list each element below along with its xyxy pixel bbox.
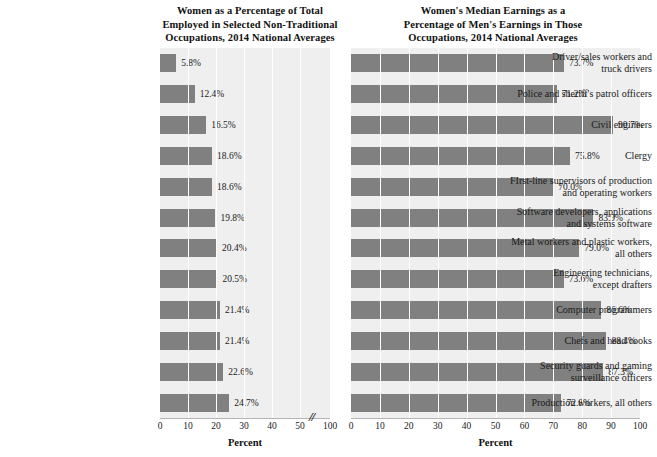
chart-title-right-line: Percentage of Men's Earnings in Those: [388, 18, 598, 32]
category-label: Security guards and gamingsurveillance o…: [494, 360, 652, 384]
category-label-line: Computer programmers: [494, 304, 652, 316]
category-label-line: and operating workers: [494, 187, 652, 199]
category-label-line: Software developers, applications: [494, 206, 652, 218]
chart-title-right: Women's Median Earnings as aPercentage o…: [388, 4, 598, 45]
category-label-line: Driver/sales workers and: [494, 51, 652, 63]
bar: [160, 363, 223, 381]
x-axis-left-tick-label: 10: [175, 421, 201, 432]
axis-break-marker: //: [309, 409, 314, 425]
category-label: Chefs and head cooks: [494, 335, 652, 347]
x-axis-right-tick-label: 60: [511, 421, 537, 432]
gridline: [188, 48, 189, 418]
bar-value-label: 18.6%: [217, 178, 242, 196]
axis-title-right: Percent: [351, 437, 640, 448]
bar-value-label: 21.4%: [225, 332, 250, 350]
chart-title-left-line: Women as a Percentage of Total: [152, 4, 348, 18]
category-label-line: Metal workers and plastic workers,: [494, 236, 652, 248]
category-label: FIrst-line supervisors of productionand …: [494, 175, 652, 199]
x-axis-right-tick-label: 0: [338, 421, 364, 432]
x-axis-right-tick-label: 10: [367, 421, 393, 432]
x-axis-right-tick-label: 90: [598, 421, 624, 432]
gridline: [300, 48, 301, 418]
category-label-line: truck drivers: [494, 63, 652, 75]
bar-value-label: 21.4%: [225, 301, 250, 319]
bar-value-label: 24.7%: [234, 394, 259, 412]
x-axis-left-tick-label: 0: [147, 421, 173, 432]
category-label: Driver/sales workers andtruck drivers: [494, 51, 652, 75]
gridline: [438, 48, 439, 418]
category-label-line: Clergy: [494, 150, 652, 162]
category-label-line: all others: [494, 248, 652, 260]
bar: [160, 332, 220, 350]
category-label-line: except drafters: [494, 279, 652, 291]
axis-title-left: Percent: [160, 437, 330, 448]
gridline: [409, 48, 410, 418]
x-axis-right-tick-label: 20: [396, 421, 422, 432]
bar-value-label: 20.4%: [222, 239, 247, 257]
category-label-line: surveillance officers: [494, 372, 652, 384]
bar: [160, 394, 229, 412]
gridline: [216, 48, 217, 418]
category-label: Software developers, applicationsand sys…: [494, 206, 652, 230]
bar-value-label: 5.8%: [181, 54, 201, 72]
bar: [160, 54, 176, 72]
bar: [160, 116, 206, 134]
chart-panel-left: Women as a Percentage of TotalEmployed i…: [0, 0, 340, 457]
category-label-line: Security guards and gaming: [494, 360, 652, 372]
x-axis-left-tick-label: 40: [259, 421, 285, 432]
x-axis-left-tick-label: 30: [231, 421, 257, 432]
x-axis-right-tick-label: 40: [454, 421, 480, 432]
bar: [160, 178, 212, 196]
chart-title-left: Women as a Percentage of TotalEmployed i…: [152, 4, 348, 45]
bar-value-label: 16.5%: [211, 116, 236, 134]
category-label-line: FIrst-line supervisors of production: [494, 175, 652, 187]
x-axis-right-tick-label: 100: [627, 421, 653, 432]
bar: [160, 147, 212, 165]
bar-value-label: 18.6%: [217, 147, 242, 165]
category-label: Metal workers and plastic workers,all ot…: [494, 236, 652, 260]
chart-title-left-line: Employed in Selected Non-Traditional: [152, 18, 348, 32]
category-label-line: Chefs and head cooks: [494, 335, 652, 347]
figure-root: { "figure": { "copyright": "© 2018 Cenga…: [0, 0, 657, 457]
x-axis-left-tick-label: 20: [203, 421, 229, 432]
gridline: [330, 48, 331, 418]
category-label: Police and sheriff's patrol officers: [494, 88, 652, 100]
x-axis-right-tick-label: 80: [569, 421, 595, 432]
gridline: [467, 48, 468, 418]
axis-baseline-right: [351, 418, 640, 419]
gridline: [380, 48, 381, 418]
x-axis-right-tick-label: 50: [483, 421, 509, 432]
chart-title-right-line: Women's Median Earnings as a: [388, 4, 598, 18]
x-axis-right-tick-label: 70: [540, 421, 566, 432]
bar: [160, 301, 220, 319]
category-label-line: and systems software: [494, 218, 652, 230]
category-label: Production workers, all others: [494, 397, 652, 409]
bar-value-label: 12.4%: [200, 85, 225, 103]
gridline: [244, 48, 245, 418]
chart-title-left-line: Occupations, 2014 National Averages: [152, 31, 348, 45]
category-label: Civil engineers: [494, 119, 652, 131]
bar-value-label: 19.8%: [220, 209, 245, 227]
category-label: Clergy: [494, 150, 652, 162]
category-label-line: Production workers, all others: [494, 397, 652, 409]
gridline: [272, 48, 273, 418]
bar: [160, 85, 195, 103]
axis-baseline-left: [160, 418, 330, 419]
x-axis-right-tick-label: 30: [425, 421, 451, 432]
bar-value-label: 22.6%: [228, 363, 253, 381]
category-label: Engineering technicians,except drafters: [494, 267, 652, 291]
chart-title-right-line: Occupations, 2014 National Averages: [388, 31, 598, 45]
category-label-line: Engineering technicians,: [494, 267, 652, 279]
category-label: Computer programmers: [494, 304, 652, 316]
plot-area-left: 5.8%12.4%16.5%18.6%18.6%19.8%20.4%20.5%2…: [160, 48, 330, 418]
category-label-line: Police and sheriff's patrol officers: [494, 88, 652, 100]
category-label-line: Civil engineers: [494, 119, 652, 131]
